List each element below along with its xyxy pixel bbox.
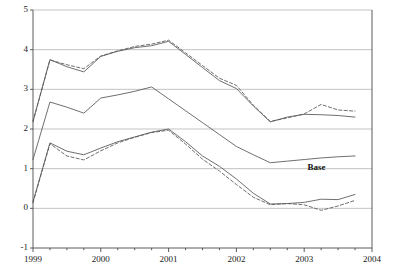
gridlines-group [33,50,372,209]
x-axis-label-2003: 2003 [292,254,316,264]
y-axis-label-3: 3 [6,83,28,93]
series-line-upper-solid [33,41,355,122]
y-axis-label-2: 2 [6,123,28,133]
x-axis-label-2001: 2001 [157,254,181,264]
x-tick-marks-group [33,248,372,252]
x-axis-label-2004: 2004 [360,254,384,264]
series-line-upper-dashed [33,40,355,122]
chart-container: 543210-1 199920002001200220032004 Base [0,0,398,273]
x-axis-label-2000: 2000 [89,254,113,264]
y-axis-label-0: 0 [6,202,28,212]
line-chart-plot [0,0,398,273]
y-axis-label-5: 5 [6,4,28,14]
y-axis-label-1: 1 [6,163,28,173]
x-axis-label-2002: 2002 [224,254,248,264]
series-annotation-base: Base [308,162,326,172]
y-axis-label--1: -1 [6,242,28,252]
data-series-group [33,40,355,210]
y-axis-label-4: 4 [6,44,28,54]
x-axis-label-1999: 1999 [21,254,45,264]
